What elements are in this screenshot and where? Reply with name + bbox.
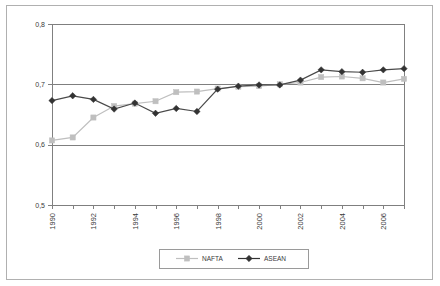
data-point-marker [70, 93, 76, 99]
chart-legend: NAFTAASEAN [160, 250, 309, 269]
y-axis-label: 0,6 [35, 141, 45, 148]
legend-label-asean: ASEAN [264, 255, 286, 262]
x-axis-label: 1994 [131, 213, 140, 230]
data-point-marker [381, 80, 386, 85]
legend-label-nafta: NAFTA [202, 255, 223, 262]
chart-figure: 0,80,70,60,5 199019921994199619982000200… [0, 0, 440, 286]
data-point-marker [49, 138, 54, 143]
data-point-marker [360, 76, 365, 81]
x-axis-label: 1998 [214, 213, 223, 230]
x-axis-label: 1992 [89, 213, 98, 230]
data-point-marker [90, 96, 96, 102]
data-point-marker [401, 76, 406, 81]
series-asean [49, 65, 407, 116]
x-axis-label: 2006 [379, 213, 388, 230]
series-line-asean [52, 69, 404, 114]
x-axis-label: 1990 [48, 213, 57, 230]
line-chart: 0,80,70,60,5 199019921994199619982000200… [0, 0, 440, 286]
data-point-marker [319, 74, 324, 79]
data-point-marker [91, 115, 96, 120]
data-point-marker [174, 90, 179, 95]
y-axis-labels-group: 0,80,70,60,5 [35, 21, 45, 209]
gridlines-group [52, 25, 404, 206]
x-axis-label: 2000 [255, 213, 264, 230]
data-point-marker [173, 105, 179, 111]
y-axis-label: 0,8 [35, 21, 45, 28]
x-axis-labels-group: 199019921994199619982000200220042006 [48, 213, 388, 230]
series-line-nafta [52, 76, 404, 140]
x-axis-label: 1996 [172, 213, 181, 230]
data-point-marker [194, 89, 199, 94]
data-point-marker [152, 110, 158, 116]
data-point-marker [70, 135, 75, 140]
x-axis-label: 2004 [338, 213, 347, 230]
y-axis-label: 0,5 [35, 202, 45, 209]
x-axis-label: 2002 [296, 213, 305, 230]
data-point-marker [184, 256, 189, 261]
data-point-marker [49, 97, 55, 103]
axes-group [53, 24, 405, 205]
y-axis-label: 0,7 [35, 81, 45, 88]
data-point-marker [380, 67, 386, 73]
data-point-marker [153, 99, 158, 104]
data-point-marker [318, 67, 324, 73]
data-point-marker [359, 69, 365, 75]
tick-marks-group [48, 25, 405, 210]
data-point-marker [401, 65, 407, 71]
